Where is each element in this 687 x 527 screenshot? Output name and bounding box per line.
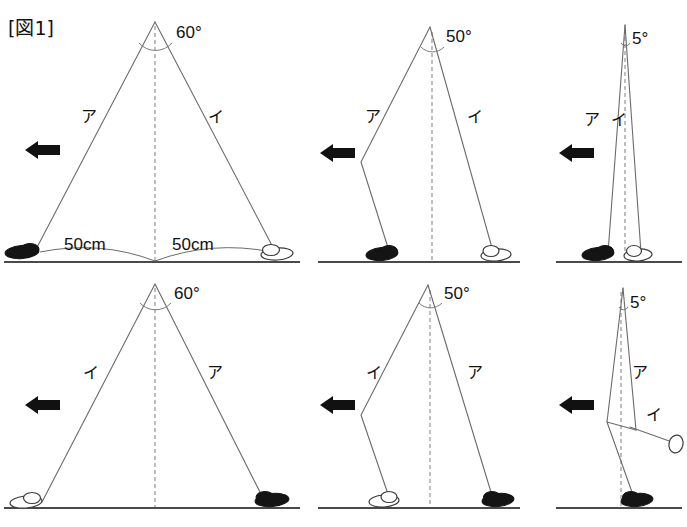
left-leg-label: ア — [365, 107, 381, 126]
swing-leg — [630, 427, 672, 442]
left-dimension-label: 50cm — [64, 235, 106, 254]
left-shoe-dark — [581, 246, 614, 262]
left-arrow-icon — [320, 396, 355, 414]
angle-label: 50° — [446, 27, 472, 46]
angle-label: 60° — [174, 284, 200, 303]
left-leg — [33, 22, 155, 255]
left-arrow-icon — [559, 396, 594, 414]
panel-top-right: 5° ア イ — [556, 25, 682, 262]
left-leg-label: ア — [81, 107, 97, 126]
left-shoe-light — [10, 493, 43, 510]
left-shoe-dark — [4, 244, 39, 260]
left-arrow-icon — [25, 396, 60, 414]
right-leg-label: イ — [208, 107, 224, 126]
left-arrow-icon — [320, 144, 355, 162]
angle-label: 5° — [630, 293, 646, 312]
left-arrow-icon — [25, 141, 60, 159]
angle-label: 50° — [444, 284, 470, 303]
angle-label: 60° — [176, 23, 202, 42]
right-shoe-dark — [481, 492, 514, 508]
left-arrow-icon — [559, 144, 594, 162]
panel-bottom-middle: 50° イ ア — [318, 284, 520, 508]
left-leg-bent — [361, 285, 428, 500]
right-leg-label: イ — [611, 110, 627, 129]
right-shoe-light — [481, 246, 512, 263]
figure-diagram: [図1] 60° ア イ 50cm 50cm — [0, 0, 687, 527]
support-leg-label: ア — [632, 363, 648, 382]
left-leg — [608, 25, 625, 253]
right-shoe-dark — [254, 492, 289, 508]
angle-label: 5° — [632, 29, 648, 48]
left-leg-bent — [361, 27, 430, 254]
right-leg — [430, 27, 494, 255]
panel-top-left: 60° ア イ 50cm 50cm — [4, 22, 300, 262]
swing-leg-label: イ — [646, 405, 662, 424]
left-shoe-light — [369, 492, 400, 509]
right-leg-label: ア — [207, 363, 223, 382]
right-leg-label: ア — [467, 363, 483, 382]
right-shoe-light — [261, 245, 294, 262]
right-leg — [155, 22, 277, 255]
support-leg — [607, 288, 633, 495]
support-shoe-dark — [620, 492, 653, 508]
left-shoe-dark — [365, 246, 398, 262]
left-leg-label: イ — [366, 363, 382, 382]
left-leg — [42, 284, 155, 502]
right-leg — [428, 285, 494, 502]
panel-bottom-right: 5° ア イ — [556, 288, 685, 508]
left-leg-label: イ — [83, 363, 99, 382]
right-shoe-light — [624, 246, 653, 262]
left-leg-label: ア — [584, 110, 600, 129]
swing-shoe-light — [667, 434, 684, 455]
right-leg — [625, 25, 641, 253]
panel-bottom-left: 60° イ ア — [4, 284, 300, 509]
right-leg — [155, 284, 265, 502]
figure-title: [図1] — [8, 17, 54, 39]
right-leg-label: イ — [467, 107, 483, 126]
panel-top-middle: 50° ア イ — [318, 27, 520, 262]
right-dimension-label: 50cm — [172, 235, 214, 254]
